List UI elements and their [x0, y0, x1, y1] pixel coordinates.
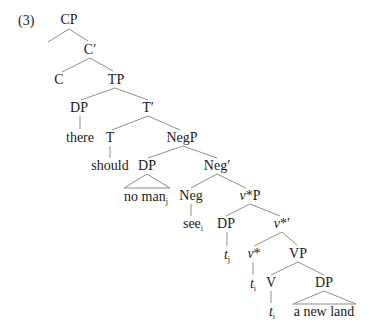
- branch-cp-left: [48, 29, 69, 42]
- branch-negp-negbar: [183, 146, 217, 158]
- branch-vp-vbar: [250, 204, 280, 216]
- node-dp-spec-neg: DP: [138, 159, 156, 173]
- branch-vp-v: [271, 262, 298, 275]
- branch-vbar-vp: [282, 232, 297, 245]
- node-t-bar: T′: [142, 101, 154, 115]
- node-v: V: [266, 276, 276, 290]
- node-dp-spec-v: DP: [217, 217, 235, 231]
- branch-negbar-neg: [191, 174, 217, 188]
- node-neg-bar: Neg′: [204, 159, 230, 173]
- node-negp: NegP: [166, 131, 197, 145]
- node-dp-spec-t: DP: [70, 101, 88, 115]
- node-tp: TP: [108, 73, 124, 87]
- node-v-star: v*: [247, 247, 260, 261]
- branch-vp-dp: [226, 204, 250, 216]
- node-v-star-p: v*P: [239, 189, 260, 203]
- branch-tp-tbar: [115, 88, 148, 100]
- leaf-see: seei: [183, 217, 203, 231]
- node-neg: Neg: [179, 189, 202, 203]
- branch-tbar-t: [112, 116, 148, 130]
- branch-negbar-vp: [217, 174, 246, 188]
- leaf-should: should: [91, 159, 128, 173]
- branch-tbar-negp: [148, 116, 180, 130]
- branch-cbar-c: [62, 58, 90, 72]
- node-dp-obj: DP: [315, 276, 333, 290]
- node-c-bar: C′: [84, 43, 96, 57]
- node-v-star-bar: v*′: [274, 217, 290, 231]
- node-cp: CP: [60, 13, 77, 27]
- trace-t-i-vhead: ti: [269, 305, 275, 319]
- branch-cp-cbar: [69, 29, 88, 41]
- branch-negp-dp: [148, 146, 183, 158]
- branch-cbar-tp: [90, 58, 113, 71]
- triangle-no-man: [124, 174, 170, 188]
- triangle-a-new-land: [293, 291, 356, 304]
- node-t: T: [106, 131, 115, 145]
- leaf-a-new-land: a new land: [294, 305, 355, 319]
- trace-t-j: tj: [224, 248, 230, 262]
- node-c: C: [54, 73, 63, 87]
- branch-vp-dpobj: [298, 262, 324, 275]
- trace-t-i-v: ti: [250, 277, 256, 291]
- leaf-no-man: no manj: [124, 190, 168, 204]
- branch-tp-dp: [81, 88, 115, 100]
- branch-vbar-vhead: [254, 232, 282, 246]
- leaf-there: there: [66, 131, 94, 145]
- node-vp: VP: [289, 247, 307, 261]
